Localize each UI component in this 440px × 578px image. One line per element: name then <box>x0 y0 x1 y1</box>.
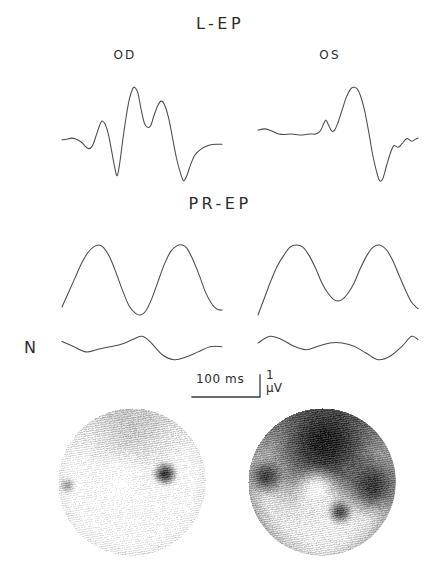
eye-label-os: OS <box>250 48 410 62</box>
trace-noise-od <box>62 334 222 362</box>
trace-lep-os <box>258 78 418 190</box>
section-title-lep: L-EP <box>0 14 440 33</box>
field-map-dither-os <box>248 408 396 556</box>
visual-field-map-os <box>248 408 396 556</box>
evoked-potential-figure: L-EP OD OS PR-EP N 100 ms 1 µV <box>0 0 440 578</box>
trace-prep-os <box>258 238 418 322</box>
trace-noise-os <box>258 334 418 362</box>
field-map-dither-od <box>58 408 206 556</box>
visual-field-map-od <box>58 408 206 556</box>
trace-lep-od <box>62 78 222 190</box>
scale-bar-amplitude-value: 1 <box>266 369 282 382</box>
scale-bar: 100 ms 1 µV <box>190 372 300 414</box>
trace-prep-od <box>62 238 222 322</box>
eye-label-od: OD <box>0 48 250 62</box>
scale-bar-amplitude: 1 µV <box>266 369 282 395</box>
section-title-prep: PR-EP <box>0 194 440 213</box>
scale-bar-amplitude-unit: µV <box>266 382 282 395</box>
scale-bar-glyph <box>190 372 300 414</box>
noise-row-label: N <box>24 338 37 357</box>
